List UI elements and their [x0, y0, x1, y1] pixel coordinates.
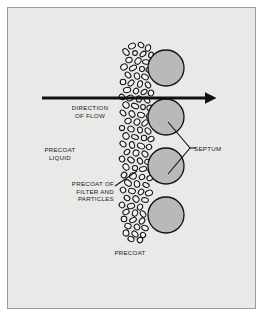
septum-spheres	[148, 50, 184, 233]
flow-arrow	[42, 92, 217, 104]
septum-sphere	[148, 50, 184, 86]
label-direction-of-flow: DIRECTION OF FLOW	[55, 104, 125, 119]
septum-sphere	[148, 99, 184, 135]
label-precoat-liquid: PRECOAT LIQUID	[25, 146, 95, 161]
label-precoat: PRECOAT	[95, 249, 165, 257]
label-septum: SEPTUM	[194, 145, 244, 153]
septum-sphere	[148, 148, 184, 184]
label-precoat-of-filter-and-particles: PRECOAT OF FILTER AND PARTICLES	[48, 180, 114, 203]
septum-sphere	[148, 197, 184, 233]
screenshot-root: DIRECTION OF FLOW PRECOAT LIQUID PRECOAT…	[0, 0, 265, 318]
